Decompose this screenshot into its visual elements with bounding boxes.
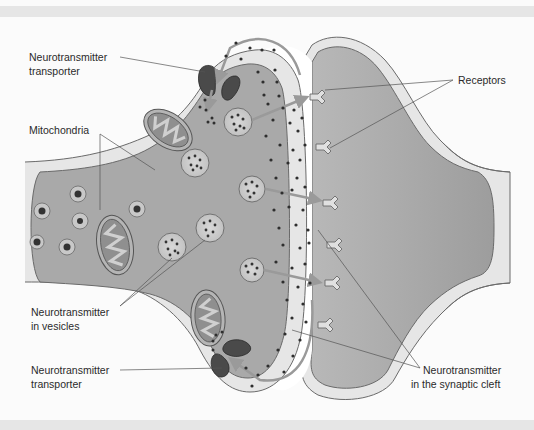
label-line: in vesicles — [31, 319, 109, 333]
label-line: Receptors — [458, 73, 506, 87]
label-receptors: Receptors — [458, 73, 506, 87]
postsynaptic-cell — [302, 37, 510, 399]
label-line: in the synaptic cleft — [411, 377, 501, 391]
vesicle-2 — [158, 233, 186, 261]
label-transporter-top: Neurotransmitter transporter — [29, 50, 107, 78]
label-line: Neurotransmitter — [31, 305, 109, 319]
presynaptic-terminal — [25, 50, 307, 392]
vesicle-1 — [181, 149, 209, 177]
label-cleft: Neurotransmitter in the synaptic cleft — [411, 363, 501, 391]
label-line: Neurotransmitter — [29, 50, 107, 64]
label-line: Neurotransmitter — [31, 363, 109, 377]
label-mitochondria: Mitochondria — [29, 123, 89, 137]
label-vesicles: Neurotransmitter in vesicles — [31, 305, 109, 333]
vesicle-3 — [196, 214, 224, 242]
label-line: Neurotransmitter — [411, 363, 501, 377]
label-line: transporter — [31, 377, 109, 391]
label-line: Mitochondria — [29, 123, 89, 137]
docked-vesicle-3 — [240, 258, 264, 282]
docked-vesicle-2 — [239, 176, 265, 202]
label-transporter-bottom: Neurotransmitter transporter — [31, 363, 109, 391]
docked-vesicle-1 — [224, 108, 252, 136]
label-line: transporter — [29, 64, 107, 78]
